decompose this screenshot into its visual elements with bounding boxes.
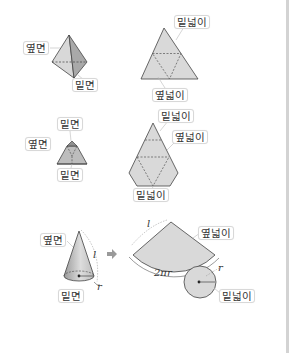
frustum-bottom-base-label: 밑면 [57,168,83,182]
frustum-net-top-area-label: 밑넓이 [158,109,194,123]
tetrahedron-net-base-area-label: 밑넓이 [174,15,210,29]
frustum-solid [57,131,87,168]
frustum-net-bottom-area-label: 밑넓이 [133,188,169,202]
cone-net-radius-symbol: r [218,262,223,273]
cone-base-label: 밑면 [58,289,84,303]
cone-slant-symbol: l [93,249,96,260]
cone-side-label: 옆면 [40,233,66,247]
frustum-top-base-label: 밑면 [57,117,83,131]
arrow-right-icon [107,249,117,259]
diagram-canvas: 옆면 밑면 밑넓이 옆넓이 밑면 옆면 밑면 밑넓이 옆넓이 밑넓이 옆면 밑면… [0,0,298,353]
frustum-net [129,121,178,190]
tetrahedron-solid [50,35,87,80]
tetrahedron-side-label: 옆면 [23,41,49,55]
cone-net-base-circle [184,266,220,298]
page-divider [286,0,289,353]
cone-net-slant-symbol: l [147,218,150,229]
cone-radius-symbol: r [97,281,102,292]
tetrahedron-net-side-area-label: 옆넓이 [152,88,188,102]
tetrahedron-base-label: 밑면 [72,78,98,92]
cone-net-base-area-label: 밑넓이 [219,289,255,303]
frustum-net-side-area-label: 옆넓이 [172,130,208,144]
tetrahedron-net [141,27,198,88]
cone-net-side-area-label: 옆넓이 [198,226,234,240]
cone-net-arc-length-symbol: 2πr [154,267,172,278]
frustum-side-label: 옆면 [25,137,51,151]
